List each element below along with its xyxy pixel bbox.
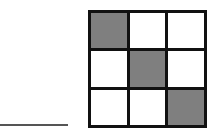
grid-cell-r1-c3-empty: [168, 13, 204, 48]
grid-cell-r3-c2-empty: [130, 90, 166, 125]
pattern-grid: [88, 10, 207, 128]
grid-cell-r2-c1-empty: [91, 51, 127, 86]
grid-cell-r3-c3-filled: [168, 90, 204, 125]
grid-cell-r2-c2-filled: [130, 51, 166, 86]
grid-cell-r2-c3-empty: [168, 51, 204, 86]
answer-blank-line: [0, 124, 68, 126]
grid-cell-r1-c1-filled: [91, 13, 127, 48]
grid-cell-r3-c1-empty: [91, 90, 127, 125]
grid-cell-r1-c2-empty: [130, 13, 166, 48]
